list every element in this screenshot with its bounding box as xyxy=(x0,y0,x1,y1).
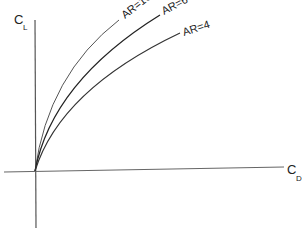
drag-polar-chart: C L C D AR=10 AR=6 AR=4 xyxy=(0,0,307,234)
curve-ar-10 xyxy=(35,20,119,171)
y-axis xyxy=(35,20,36,228)
x-axis xyxy=(4,167,284,172)
svg-text:C: C xyxy=(14,12,23,27)
svg-text:L: L xyxy=(23,23,28,32)
label-ar-6: AR=6 xyxy=(159,0,189,17)
svg-text:D: D xyxy=(296,174,302,183)
label-ar-10: AR=10 xyxy=(119,0,153,21)
label-ar-4: AR=4 xyxy=(181,18,211,38)
y-axis-label: C L xyxy=(14,12,28,32)
svg-text:C: C xyxy=(287,162,296,177)
x-axis-label: C D xyxy=(287,162,302,183)
